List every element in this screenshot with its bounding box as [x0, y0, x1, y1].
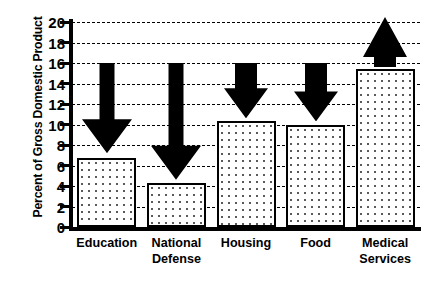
y-tick-label: 12	[48, 97, 65, 112]
housing-down-arrow	[221, 63, 271, 118]
food-down-arrow	[291, 63, 341, 121]
y-tick-label: 20	[48, 15, 65, 30]
category-label-housing: Housing	[211, 236, 281, 252]
x-axis-line	[69, 227, 421, 231]
category-label-line: Education	[72, 236, 142, 252]
category-label-medical-services: MedicalServices	[350, 236, 420, 267]
y-tick-label: 4	[57, 179, 65, 194]
category-label-line: Food	[281, 236, 351, 252]
x-axis-category-labels: EducationNationalDefenseHousingFoodMedic…	[72, 236, 420, 281]
medical-up-arrow	[360, 17, 410, 67]
y-tick-label: 8	[57, 138, 65, 153]
y-tick-label: 18	[48, 35, 65, 50]
y-tick-label: 14	[48, 76, 65, 91]
y-tick-label: 16	[48, 56, 65, 71]
category-label-line: National	[142, 236, 212, 252]
category-label-food: Food	[281, 236, 351, 252]
defense-down-arrow	[148, 63, 204, 180]
y-tick-label: 2	[57, 199, 65, 214]
y-tick-label: 0	[57, 220, 65, 235]
y-axis-title: Percent of Gross Domestic Product	[31, 7, 45, 227]
category-label-line: Medical	[350, 236, 420, 252]
education-down-arrow	[79, 63, 135, 153]
annotation-arrows-group	[72, 22, 420, 227]
category-label-line: Defense	[142, 252, 212, 268]
category-label-education: Education	[72, 236, 142, 252]
y-tick-label: 10	[48, 117, 65, 132]
category-label-national-defense: NationalDefense	[142, 236, 212, 267]
bar-chart: Percent of Gross Domestic Product 201816…	[0, 0, 434, 283]
plot-area: 20181614121086420	[72, 22, 420, 227]
category-label-line: Housing	[211, 236, 281, 252]
category-label-line: Services	[350, 252, 420, 268]
y-tick-label: 6	[57, 158, 65, 173]
